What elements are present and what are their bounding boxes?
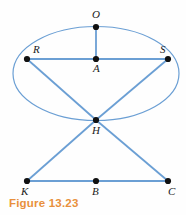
figure-caption: Figure 13.23 (9, 197, 79, 209)
point-C (165, 178, 171, 184)
point-H (93, 117, 99, 123)
segment-H-C (96, 120, 168, 181)
point-R (24, 56, 30, 62)
point-O (93, 24, 99, 30)
figure-container: O R S A H K B C Figure 13.23 (0, 0, 186, 215)
point-S (165, 56, 171, 62)
point-K (24, 178, 30, 184)
segment-S-H (96, 59, 168, 120)
point-label-H: H (91, 124, 101, 136)
point-label-C: C (168, 185, 176, 197)
segment-H-K (27, 120, 96, 181)
point-label-R: R (32, 43, 40, 55)
geometry-diagram: O R S A H K B C (0, 0, 186, 215)
segment-R-H (27, 59, 96, 120)
point-B (93, 178, 99, 184)
point-label-K: K (20, 185, 29, 197)
point-label-A: A (92, 62, 100, 74)
point-label-S: S (160, 43, 166, 55)
point-label-O: O (92, 8, 100, 20)
point-label-B: B (92, 185, 99, 197)
